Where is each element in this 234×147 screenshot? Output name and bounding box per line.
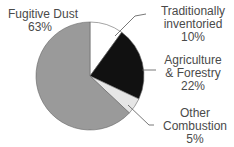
label-percent: 22%: [160, 80, 226, 93]
label-percent: 10%: [156, 31, 230, 44]
label-traditionally-inventoried: Traditionally inventoried 10%: [156, 5, 230, 44]
label-percent: 5%: [160, 133, 230, 146]
label-percent: 63%: [8, 21, 72, 34]
label-other-combustion: Other Combustion 5%: [160, 107, 230, 146]
pie-slices: [36, 22, 144, 130]
label-agriculture-forestry: Agriculture & Forestry 22%: [160, 54, 226, 93]
label-fugitive-dust: Fugitive Dust 63%: [8, 8, 72, 34]
